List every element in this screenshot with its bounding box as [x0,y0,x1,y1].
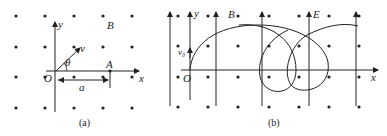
x-label-b: x [370,71,376,83]
magnetic-field-label-b: B [228,8,235,20]
caption-a: (a) [79,117,90,129]
angle-label: θ [65,56,71,68]
trajectory-loop-1 [239,25,296,92]
physics-diagram: y x O v θ A a B (a) y x O v₀ [0,0,387,136]
particle-trajectory [190,24,358,90]
point-a-label: A [105,58,113,70]
field-label-a: B [107,19,114,31]
distance-label: a [79,81,85,93]
panel-a: y x O v θ A a B (a) [14,14,144,129]
magnetic-field-dots-a [14,14,133,109]
origin-label-b: O [183,72,191,84]
y-label-b: y [193,7,199,19]
velocity-label-a: v [80,42,85,54]
origin-label-a: O [44,72,52,84]
electric-field-label: E [312,8,320,20]
x-label-a: x [138,72,144,84]
caption-b: (b) [268,117,280,129]
panel-b: y x O v₀ B E (b) [170,7,378,129]
electric-field-lines [170,12,356,106]
y-label-a: y [57,18,63,30]
velocity-label-b: v₀ [178,47,185,57]
